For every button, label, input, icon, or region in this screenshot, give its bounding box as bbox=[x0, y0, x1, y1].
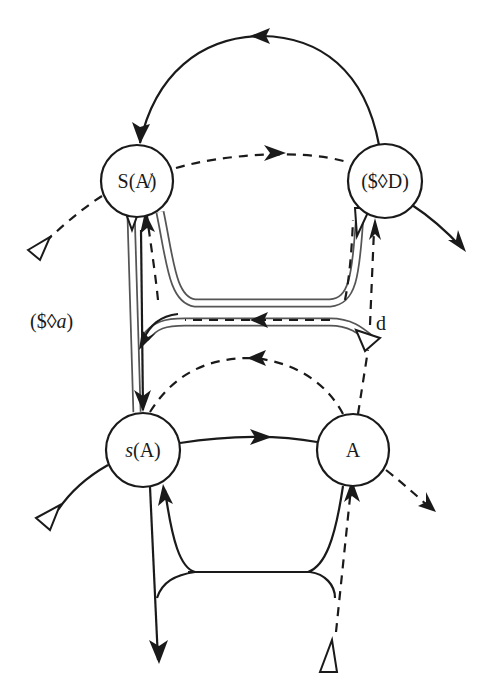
other-to-signified-dashed-arc bbox=[150, 350, 343, 414]
arrowhead-down bbox=[132, 122, 150, 144]
arrowhead-bottom-down bbox=[149, 640, 168, 664]
node-label-drive: ($◊D) bbox=[361, 170, 409, 193]
graph-of-desire-diagram: S(A̸) ($◊D) s(A) A ($◊a) d bbox=[0, 0, 485, 694]
node-signified: s(A) bbox=[106, 413, 180, 487]
arrowhead-up-signified bbox=[158, 484, 173, 506]
signified-prefix: s bbox=[125, 439, 133, 461]
lower-channel bbox=[149, 480, 360, 672]
barred-signifier-to-drive-dashed bbox=[176, 145, 347, 168]
upper-double-channel bbox=[131, 212, 372, 412]
arrowhead-drive-exit bbox=[448, 230, 466, 252]
arrowhead-up-drive bbox=[369, 218, 381, 240]
fantasy-label: ($◊a) bbox=[30, 310, 73, 333]
node-label-barred-signifier: S(A̸) bbox=[118, 170, 157, 193]
other-exit-dashed bbox=[386, 470, 436, 512]
drive-exit bbox=[412, 205, 466, 252]
fantasy-prefix: ($◊ bbox=[30, 310, 57, 333]
node-barred-signifier: S(A̸) bbox=[101, 145, 173, 217]
arrowhead-other-exit bbox=[418, 492, 436, 512]
node-drive: ($◊D) bbox=[348, 144, 422, 218]
entry-left-upper bbox=[28, 196, 102, 260]
node-label-other: A bbox=[346, 439, 361, 461]
arrowhead-arc-left bbox=[247, 350, 266, 366]
drive-to-barred-signifier-arc bbox=[132, 28, 379, 145]
entry-left-lower bbox=[36, 465, 108, 530]
open-triangle-bottom bbox=[320, 640, 337, 672]
node-label-signified: s(A) bbox=[125, 439, 161, 462]
fantasy-suffix: ) bbox=[67, 310, 74, 333]
open-triangle-upper-left bbox=[28, 237, 50, 260]
node-other: A bbox=[317, 414, 389, 486]
arrowhead-right bbox=[264, 145, 286, 161]
signified-suffix: (A) bbox=[133, 439, 161, 462]
open-triangle-lower-left bbox=[36, 505, 60, 530]
signified-to-other bbox=[180, 429, 317, 445]
fantasy-var: a bbox=[57, 310, 67, 332]
desire-label: d bbox=[376, 312, 386, 334]
